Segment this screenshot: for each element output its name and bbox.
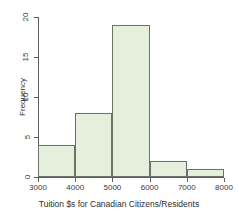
x-axis-title: Tuition $s for Canadian Citizens/Residen… (0, 200, 238, 209)
x-tick-mark (224, 178, 225, 182)
histogram-bar (38, 145, 75, 177)
x-tick-label: 3000 (29, 184, 47, 192)
histogram-bar (75, 113, 112, 177)
x-tick-label: 6000 (141, 184, 159, 192)
histogram-bar (150, 161, 187, 177)
x-tick-label: 8000 (215, 184, 233, 192)
y-tick-label: 10 (22, 93, 30, 102)
x-tick-label: 5000 (103, 184, 121, 192)
y-tick-label: 0 (24, 175, 32, 179)
x-tick-mark (187, 178, 188, 182)
y-tick-label: 20 (22, 13, 30, 22)
histogram-bar (187, 169, 224, 177)
x-tick-mark (112, 178, 113, 182)
x-tick-mark (38, 178, 39, 182)
y-tick-label: 15 (22, 53, 30, 62)
plot-area (38, 17, 224, 177)
x-axis-line (38, 177, 224, 178)
x-tick-label: 4000 (66, 184, 84, 192)
x-tick-label: 7000 (178, 184, 196, 192)
x-tick-mark (75, 178, 76, 182)
histogram-bar (112, 25, 149, 177)
y-tick-label: 5 (24, 135, 32, 139)
histogram-figure: Frequency 05101520 300040005000600070008… (0, 0, 238, 223)
x-tick-mark (150, 178, 151, 182)
